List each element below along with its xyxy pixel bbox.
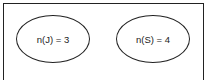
set-s-circle: n(S) = 4 xyxy=(116,15,190,63)
set-s-label: n(S) = 4 xyxy=(136,34,170,45)
set-j-label: n(J) = 3 xyxy=(37,34,69,45)
set-j-circle: n(J) = 3 xyxy=(16,15,90,63)
